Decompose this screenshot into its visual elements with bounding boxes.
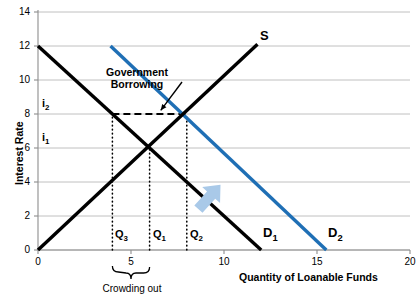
subscript: 2 <box>45 103 49 112</box>
axes <box>34 10 410 254</box>
y-tick-0: 0 <box>10 244 30 255</box>
x-tick-20: 20 <box>398 256 419 267</box>
loanable-funds-chart: Interest Rate Quantity of Loanable Funds… <box>0 0 419 298</box>
subscript: 3 <box>124 234 128 243</box>
axis-marker-i2: i2 <box>42 97 49 112</box>
subscript: 1 <box>45 137 49 146</box>
curve-label-d2: D2 <box>328 225 343 243</box>
axis-marker-q2: Q2 <box>190 228 203 243</box>
x-tick-0: 0 <box>26 256 50 267</box>
curve-label-s: S <box>260 28 269 43</box>
annotation-crowding-out: Crowding out <box>92 283 172 294</box>
gov-borrowing-line2: Borrowing <box>111 78 164 90</box>
axis-marker-q3: Q3 <box>115 228 128 243</box>
x-axis-title: Quantity of Loanable Funds <box>239 271 378 283</box>
y-tick-14: 14 <box>10 6 30 17</box>
y-tick-6: 6 <box>10 142 30 153</box>
curve-label-d1: D1 <box>263 225 278 243</box>
x-tick-10: 10 <box>212 256 236 267</box>
chart-canvas <box>0 0 419 298</box>
y-tick-10: 10 <box>10 74 30 85</box>
gov-borrowing-line1: Government <box>106 66 168 78</box>
axis-marker-i1: i1 <box>42 131 49 146</box>
y-tick-8: 8 <box>10 108 30 119</box>
subscript: 1 <box>162 234 166 243</box>
x-tick-5: 5 <box>119 256 143 267</box>
annotation-government-borrowing: Government Borrowing <box>77 66 197 90</box>
y-tick-12: 12 <box>10 40 30 51</box>
subscript: 2 <box>199 234 203 243</box>
x-tick-15: 15 <box>305 256 329 267</box>
y-tick-2: 2 <box>10 210 30 221</box>
subscript: 2 <box>337 233 342 243</box>
axis-marker-q1: Q1 <box>153 228 166 243</box>
subscript: 1 <box>272 233 277 243</box>
y-tick-4: 4 <box>10 176 30 187</box>
